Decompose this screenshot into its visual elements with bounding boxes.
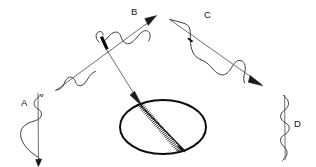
label-a: A [21,97,28,108]
group-a: A [21,93,43,166]
scatter-arrow-shaft [106,48,138,99]
vertical-axis-right [285,95,286,160]
polarization-tick-c [188,38,193,42]
wave-c-lower [200,60,245,83]
ray-c-arrow-icon [248,75,263,85]
group-b [55,16,157,91]
group-scatter-arrow [106,48,143,107]
vertical-axis-left [38,93,39,166]
incoming-ray-b [55,19,153,91]
label-b: B [131,6,137,17]
diagram-svg: A C [0,0,316,167]
wave-a-crest [40,94,43,96]
axis-arrow-a-icon [36,159,42,166]
group-d: D [280,95,301,160]
label-d: D [294,118,301,129]
outgoing-ray-c [169,19,261,84]
figure-canvas: A C [0,0,316,167]
helical-coil [139,104,183,151]
wave-c-upper [170,20,200,60]
group-ellipse [120,100,206,154]
scattering-ellipse [120,100,206,154]
group-c: C [169,9,263,86]
wave-b-lower [57,71,96,90]
label-c: C [204,9,211,20]
